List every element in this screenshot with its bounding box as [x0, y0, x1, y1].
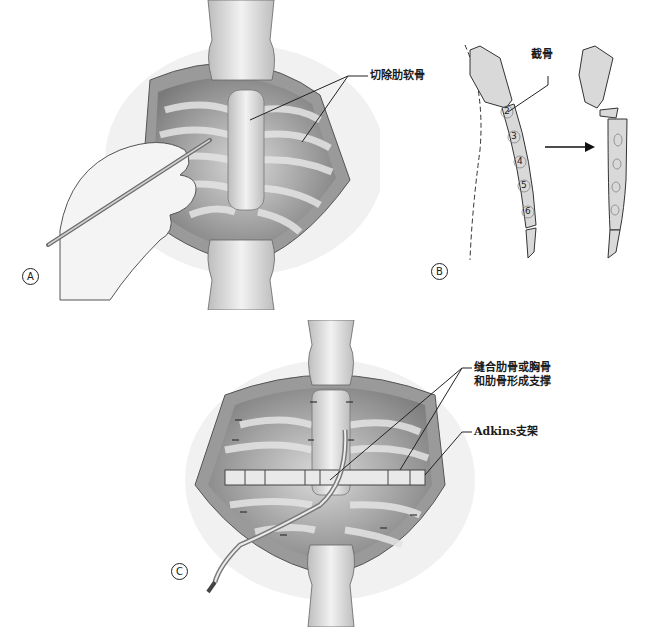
manubrium-before — [470, 46, 512, 108]
callout-resected-costal-cartilage: 切除肋软骨 — [370, 69, 425, 83]
panel-c: 缝合肋骨或胸骨 和肋骨形成支撑 Adkins支架 — [180, 320, 657, 627]
panel-b-badge: B — [431, 263, 448, 280]
segment-number-5: 5 — [521, 180, 527, 190]
panel-b: 截骨 2 3 4 5 6 — [440, 30, 657, 310]
segment-number-3: 3 — [511, 131, 517, 141]
segment-number-2: 2 — [504, 106, 510, 116]
segment-number-4: 4 — [517, 156, 523, 166]
panel-c-badge: C — [171, 563, 188, 580]
sternum — [228, 90, 264, 210]
adkins-strut — [225, 470, 425, 485]
callout-suture-ribs-line2: 和肋骨形成支撑 — [474, 375, 551, 389]
callout-osteotomy: 截骨 — [531, 48, 553, 62]
panel-b-illustration — [440, 30, 657, 310]
callout-adkins-strut: Adkins支架 — [474, 425, 538, 439]
panel-a-badge: A — [22, 268, 39, 285]
manubrium-after — [579, 46, 613, 108]
panel-c-illustration — [180, 320, 657, 627]
panel-a: 切除肋软骨 — [0, 0, 380, 310]
panel-a-illustration — [0, 0, 380, 310]
segment-number-6: 6 — [525, 206, 531, 216]
sternum-body-after — [608, 119, 627, 230]
callout-suture-ribs-line1: 缝合肋骨或胸骨 — [474, 361, 551, 375]
